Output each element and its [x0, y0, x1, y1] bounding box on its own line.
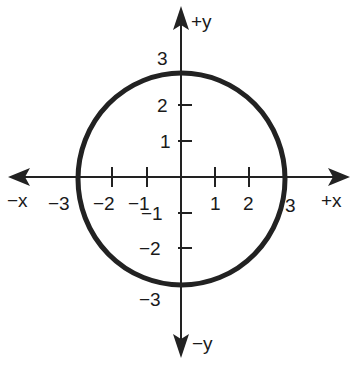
y-positive-label: +y [191, 11, 212, 32]
y-negative-label: −y [192, 333, 213, 354]
x-tick-label: 3 [285, 195, 296, 216]
x-positive-label: +x [321, 190, 342, 211]
y-tick-label: −3 [139, 289, 161, 310]
y-tick-label: −2 [139, 238, 161, 259]
x-tick-label: 1 [210, 193, 221, 214]
x-tick-label: −3 [48, 193, 70, 214]
x-tick-label: −2 [93, 193, 115, 214]
y-tick-label: −1 [141, 203, 163, 224]
coordinate-plane: +y −y −x +x −3 −2 −1 1 2 3 3 2 1 −1 −2 −… [0, 0, 359, 371]
y-tick-label: 2 [157, 95, 168, 116]
x-negative-label: −x [7, 190, 28, 211]
y-tick-label: 3 [157, 48, 168, 69]
x-tick-label: 2 [243, 193, 254, 214]
y-tick-label: 1 [160, 131, 171, 152]
